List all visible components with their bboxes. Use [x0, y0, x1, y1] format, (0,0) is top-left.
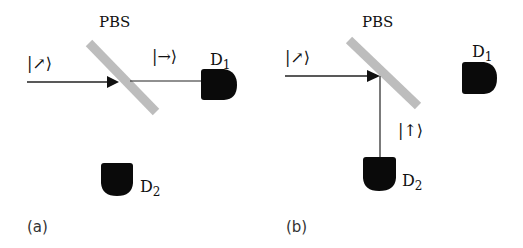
beam-splitter	[89, 43, 156, 112]
detector-d1-icon	[462, 62, 497, 94]
output-state-label: |→⟩	[152, 47, 177, 66]
detector-d2-icon	[101, 163, 133, 196]
input-state-label: |↗⟩	[285, 48, 310, 67]
pbs-label: PBS	[99, 13, 130, 31]
beam-splitter	[349, 40, 418, 106]
detector-d1-icon	[201, 69, 237, 100]
pbs-label: PBS	[362, 13, 393, 31]
output-state-label: |↑⟩	[398, 121, 423, 140]
panel-caption-b: (b)	[286, 218, 307, 236]
panel-a: PBS |↗⟩ |→⟩ D1 D2 (a)	[27, 13, 237, 236]
panel-caption-a: (a)	[27, 218, 48, 236]
pbs-diagram: PBS |↗⟩ |→⟩ D1 D2 (a) PBS |↗⟩ |↑⟩ D1 D2 …	[0, 0, 523, 248]
input-state-label: |↗⟩	[27, 54, 52, 73]
panel-b: PBS |↗⟩ |↑⟩ D1 D2 (b)	[285, 13, 497, 236]
detector-d1-label: D1	[472, 42, 492, 64]
detector-d2-icon	[363, 157, 396, 191]
detector-d2-label: D2	[402, 171, 422, 193]
detector-d2-label: D2	[140, 177, 160, 199]
detector-d1-label: D1	[210, 50, 230, 72]
